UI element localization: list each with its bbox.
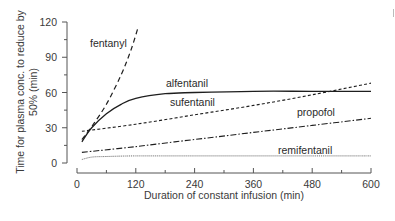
y-tick-label: 60 (45, 87, 57, 99)
label-sufentanil: sufentanil (170, 96, 215, 108)
label-fentanyl: fentanyl (90, 37, 127, 49)
x-tick-label: 120 (127, 178, 145, 190)
y-axis-title-line1: Time for plasma conc. to reduce by (14, 9, 26, 173)
label-alfentanil: alfentanil (166, 77, 208, 89)
half-time-chart: 0306090120 0120240360480600 Duration of … (0, 0, 395, 221)
x-axis: 0120240360480600 (74, 168, 380, 190)
y-tick-label: 0 (51, 157, 57, 169)
x-tick-label: 600 (362, 178, 380, 190)
y-tick-label: 120 (39, 16, 57, 28)
y-tick-label: 30 (45, 122, 57, 134)
y-axis: 0306090120 (39, 16, 67, 169)
series-remifentanil (82, 156, 371, 160)
y-axis-title: Time for plasma conc. to reduce by 50% (… (14, 9, 39, 173)
y-tick-label: 90 (45, 51, 57, 63)
x-tick-label: 480 (303, 178, 321, 190)
label-remifentanil: remifentanil (278, 144, 332, 156)
x-tick-label: 0 (74, 178, 80, 190)
x-axis-title: Duration of constant infusion (min) (144, 189, 304, 201)
y-axis-title-line2: 50% (min) (27, 68, 39, 116)
label-propofol: propofol (297, 106, 335, 118)
